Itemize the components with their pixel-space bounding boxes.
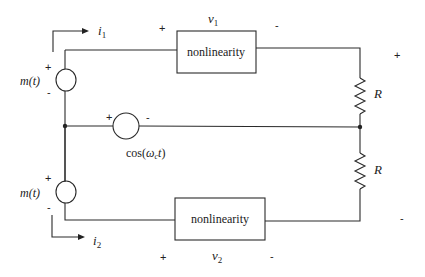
voltage-source-bottom bbox=[56, 181, 76, 203]
carrier-label: cos(ωct) bbox=[126, 146, 165, 161]
current-arrow-i2 bbox=[52, 215, 85, 240]
bottom-wire-right bbox=[265, 189, 360, 221]
resistor-top bbox=[355, 78, 365, 114]
middle-wire-right bbox=[139, 126, 360, 127]
voltage-label-v2: v2 bbox=[212, 248, 222, 265]
v2-minus: - bbox=[270, 250, 274, 262]
output-minus: - bbox=[400, 212, 404, 224]
source-bottom-plus: + bbox=[45, 172, 51, 184]
bottom-wire-left bbox=[65, 203, 175, 220]
voltage-source-top bbox=[56, 69, 76, 91]
resistor-bottom bbox=[355, 153, 365, 189]
output-plus: + bbox=[394, 49, 400, 61]
current-label-i2: i2 bbox=[93, 233, 101, 250]
source-bottom-minus: - bbox=[47, 201, 51, 213]
source-top-plus: + bbox=[45, 61, 51, 73]
top-wire-right bbox=[256, 48, 360, 78]
source-top-minus: - bbox=[47, 86, 51, 98]
carrier-plus: + bbox=[106, 111, 112, 123]
current-label-i1: i1 bbox=[98, 23, 106, 40]
source-label-top: m(t) bbox=[20, 74, 40, 88]
resistor-label-bottom: R bbox=[373, 162, 382, 177]
voltage-label-v1: v1 bbox=[208, 11, 218, 28]
nonlinearity-label-bottom: nonlinearity bbox=[191, 212, 249, 226]
circuit-diagram: i1 m(t) + - nonlinearity + v1 - R + + - … bbox=[0, 0, 425, 277]
carrier-source bbox=[113, 113, 139, 139]
source-label-bottom: m(t) bbox=[20, 186, 40, 200]
nonlinearity-label-top: nonlinearity bbox=[187, 45, 245, 59]
v1-plus: + bbox=[159, 22, 165, 34]
v1-minus: - bbox=[275, 19, 279, 31]
current-arrow-i1 bbox=[53, 28, 89, 52]
resistor-label-top: R bbox=[373, 86, 382, 101]
v2-plus: + bbox=[160, 251, 166, 263]
carrier-minus: - bbox=[146, 111, 150, 123]
